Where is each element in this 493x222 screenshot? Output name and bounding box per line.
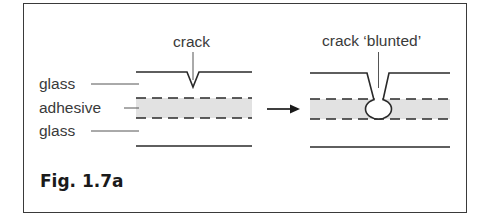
transition-arrow-icon bbox=[267, 105, 300, 114]
right-laminate bbox=[310, 52, 450, 147]
label-adhesive: adhesive bbox=[39, 99, 101, 116]
left-adhesive-layer bbox=[136, 98, 252, 118]
label-crack-blunted: crack ‘blunted’ bbox=[322, 32, 421, 49]
right-top-glass-left-with-crack bbox=[310, 73, 374, 100]
left-laminate bbox=[91, 52, 252, 146]
label-glass-top: glass bbox=[39, 75, 75, 92]
label-crack: crack bbox=[173, 33, 210, 50]
figure-caption: Fig. 1.7a bbox=[40, 171, 124, 191]
left-top-glass-surface-with-crack bbox=[136, 72, 252, 87]
label-glass-bottom: glass bbox=[39, 122, 75, 139]
crack-blunting-diagram: crack glass adhesive glass crack ‘blunte… bbox=[0, 0, 493, 222]
right-top-glass-right-with-crack bbox=[383, 73, 450, 100]
